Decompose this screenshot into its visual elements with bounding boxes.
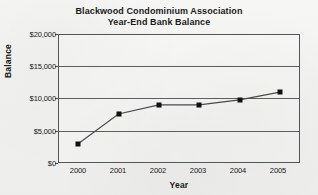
y-tick-label-20000: $20,000 — [10, 30, 56, 39]
x-tick-label-2000: 2000 — [58, 166, 98, 175]
x-tick-label-2005: 2005 — [258, 166, 298, 175]
data-point-2004 — [237, 97, 242, 102]
y-tick-label-15000: $15,000 — [10, 62, 56, 71]
chart-title-line1: Blackwood Condominium Association — [76, 6, 243, 16]
data-point-2002 — [156, 102, 161, 107]
x-tick-label-2001: 2001 — [98, 166, 138, 175]
gridline-15000 — [59, 66, 299, 67]
data-point-2005 — [277, 90, 282, 95]
y-tick-label-5000: $5,000 — [10, 127, 56, 136]
x-axis-title: Year — [58, 180, 300, 190]
x-tick-label-2004: 2004 — [218, 166, 258, 175]
y-tick-label-0: $0 — [10, 159, 56, 168]
chart-title: Blackwood Condominium Association Year-E… — [0, 6, 318, 28]
line-chart: Blackwood Condominium Association Year-E… — [0, 0, 318, 195]
data-point-2001 — [116, 111, 121, 116]
gridline-10000 — [59, 98, 299, 99]
x-tick-label-2002: 2002 — [138, 166, 178, 175]
plot-area — [58, 34, 300, 163]
y-tick-label-10000: $10,000 — [10, 94, 56, 103]
data-point-2003 — [197, 102, 202, 107]
x-tick-label-2003: 2003 — [178, 166, 218, 175]
gridline-5000 — [59, 131, 299, 132]
data-point-2000 — [76, 141, 81, 146]
chart-title-line2: Year-End Bank Balance — [0, 17, 318, 28]
